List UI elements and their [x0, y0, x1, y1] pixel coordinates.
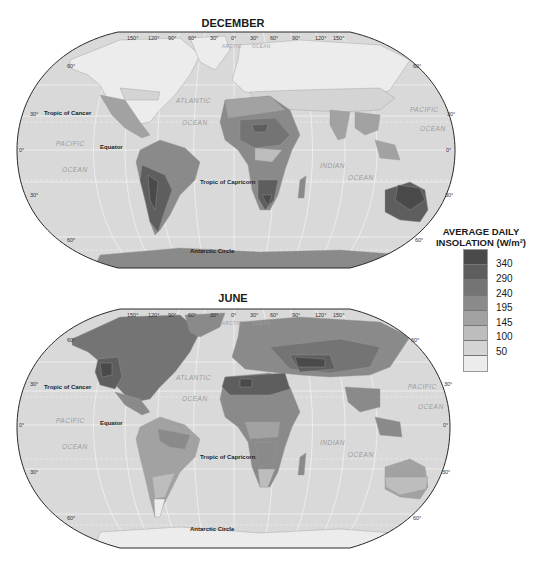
svg-text:60°: 60°: [270, 35, 278, 41]
svg-text:ARCTIC: ARCTIC: [221, 44, 242, 49]
svg-text:90°: 90°: [168, 312, 176, 318]
svg-text:30°: 30°: [442, 469, 450, 475]
svg-text:30°: 30°: [210, 35, 218, 41]
svg-text:OCEAN: OCEAN: [348, 451, 374, 458]
svg-text:60°: 60°: [270, 312, 278, 318]
svg-text:OCEAN: OCEAN: [252, 44, 271, 49]
legend-break-label: 195: [496, 302, 513, 313]
legend-swatch: [464, 311, 487, 326]
svg-text:60°: 60°: [411, 337, 419, 343]
svg-text:60°: 60°: [188, 312, 196, 318]
svg-text:OCEAN: OCEAN: [418, 403, 444, 410]
svg-text:OCEAN: OCEAN: [348, 174, 374, 181]
svg-text:PACIFIC: PACIFIC: [56, 417, 85, 424]
svg-text:30°: 30°: [250, 312, 258, 318]
svg-text:0°: 0°: [19, 422, 24, 428]
svg-text:OCEAN: OCEAN: [62, 166, 88, 173]
svg-text:120°: 120°: [148, 312, 159, 318]
legend-break-label: 340: [496, 258, 513, 269]
svg-text:60°: 60°: [67, 237, 75, 243]
legend-break-label: 290: [496, 273, 513, 284]
svg-text:30°: 30°: [210, 312, 218, 318]
svg-text:INDIAN: INDIAN: [320, 439, 345, 446]
svg-text:0°: 0°: [231, 35, 236, 41]
svg-text:OCEAN: OCEAN: [182, 395, 208, 402]
svg-text:ATLANTIC: ATLANTIC: [175, 97, 211, 104]
svg-text:150°: 150°: [127, 35, 138, 41]
insolation-legend: AVERAGE DAILY INSOLATION (W/m²) 340 290 …: [418, 226, 549, 248]
svg-text:30°: 30°: [30, 469, 38, 475]
legend-break-label: 240: [496, 288, 513, 299]
legend-swatch: [464, 265, 487, 280]
svg-text:30°: 30°: [30, 192, 38, 198]
svg-text:Tropic of Cancer: Tropic of Cancer: [44, 110, 92, 116]
svg-text:ARCTIC: ARCTIC: [221, 321, 242, 326]
svg-text:150°: 150°: [333, 35, 344, 41]
legend-swatch: [464, 296, 487, 311]
svg-text:30°: 30°: [447, 111, 455, 117]
svg-text:Tropic of Cancer: Tropic of Cancer: [44, 384, 92, 390]
svg-text:PACIFIC: PACIFIC: [410, 106, 439, 113]
svg-text:OCEAN: OCEAN: [182, 119, 208, 126]
legend-color-scale: [463, 249, 488, 372]
legend-swatch: [464, 326, 487, 341]
legend-swatch: [464, 356, 487, 370]
svg-text:60°: 60°: [67, 337, 75, 343]
svg-text:0°: 0°: [19, 147, 24, 153]
legend-swatch: [464, 280, 487, 295]
svg-text:60°: 60°: [67, 515, 75, 521]
svg-text:120°: 120°: [315, 35, 326, 41]
legend-title: AVERAGE DAILY INSOLATION (W/m²): [418, 226, 544, 248]
svg-text:Tropic of Capricorn: Tropic of Capricorn: [200, 179, 256, 185]
svg-text:Equator: Equator: [100, 420, 123, 426]
december-insolation-map: 150° 120° 90° 60° 30° 0° 30° 60° 90° 120…: [0, 0, 470, 277]
legend-break-label: 145: [496, 317, 513, 328]
svg-text:30°: 30°: [30, 111, 38, 117]
svg-text:30°: 30°: [445, 192, 453, 198]
svg-text:OCEAN: OCEAN: [252, 321, 271, 326]
svg-text:OCEAN: OCEAN: [420, 125, 446, 132]
svg-text:150°: 150°: [127, 312, 138, 318]
svg-text:120°: 120°: [148, 35, 159, 41]
svg-text:60°: 60°: [413, 63, 421, 69]
svg-text:ATLANTIC: ATLANTIC: [175, 374, 211, 381]
svg-text:90°: 90°: [292, 35, 300, 41]
svg-text:0°: 0°: [446, 147, 451, 153]
svg-text:Equator: Equator: [100, 144, 123, 150]
svg-text:90°: 90°: [168, 35, 176, 41]
svg-text:90°: 90°: [292, 312, 300, 318]
svg-text:60°: 60°: [67, 63, 75, 69]
legend-break-label: 50: [496, 346, 507, 357]
june-insolation-map: 150° 120° 90° 60° 30° 0° 30° 60° 90° 120…: [0, 277, 470, 564]
legend-break-label: 100: [496, 331, 513, 342]
svg-text:INDIAN: INDIAN: [320, 162, 345, 169]
svg-text:30°: 30°: [444, 381, 452, 387]
svg-text:120°: 120°: [315, 312, 326, 318]
svg-text:60°: 60°: [188, 35, 196, 41]
svg-text:60°: 60°: [413, 515, 421, 521]
legend-swatch: [464, 341, 487, 356]
svg-text:PACIFIC: PACIFIC: [56, 140, 85, 147]
svg-text:0°: 0°: [443, 422, 448, 428]
svg-text:Tropic of Capricorn: Tropic of Capricorn: [200, 454, 256, 460]
svg-text:Antarctic Circle: Antarctic Circle: [190, 248, 235, 254]
svg-text:OCEAN: OCEAN: [62, 443, 88, 450]
svg-text:Antarctic Circle: Antarctic Circle: [190, 526, 235, 532]
svg-text:0°: 0°: [231, 312, 236, 318]
svg-text:PACIFIC: PACIFIC: [408, 383, 437, 390]
svg-text:30°: 30°: [30, 381, 38, 387]
svg-text:150°: 150°: [333, 312, 344, 318]
svg-text:30°: 30°: [250, 35, 258, 41]
legend-swatch: [464, 250, 487, 265]
